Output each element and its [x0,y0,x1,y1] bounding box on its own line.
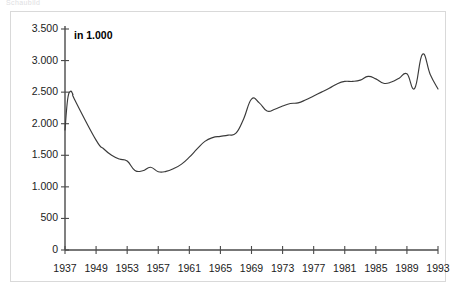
x-tick-label: 1993 [418,262,458,274]
figure-border [10,11,446,282]
y-tick-label: 3.500 [12,22,58,34]
y-tick-label: 2.000 [12,117,58,129]
y-tick-label: 3.000 [12,54,58,66]
y-tick-label: 2.500 [12,85,58,97]
unit-note-label: in 1.000 [74,29,113,41]
y-tick-label: 1.000 [12,180,58,192]
y-tick-label: 1.500 [12,148,58,160]
clipped-caption: Schaubild [6,0,40,7]
y-tick-label: 500 [12,211,58,223]
chart-figure: Schaubild in 1.000 05001.0001.5002.0002.… [0,0,458,293]
y-tick-label: 0 [12,243,58,255]
